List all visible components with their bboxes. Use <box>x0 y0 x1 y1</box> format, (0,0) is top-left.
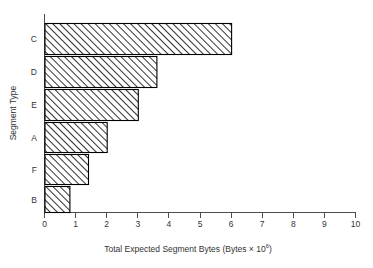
x-tick-label-10: 10 <box>351 219 361 229</box>
chart-canvas: 0 1 2 3 4 5 6 7 8 9 10 C D E A F B Segme… <box>0 0 373 268</box>
x-tick-label-7: 7 <box>260 219 265 229</box>
y-category-label-F: F <box>32 165 37 175</box>
x-tick-label-2: 2 <box>104 219 109 229</box>
x-tick-label-3: 3 <box>135 219 140 229</box>
x-tick-label-5: 5 <box>198 219 203 229</box>
bar-D[interactable] <box>45 57 157 88</box>
bar-C[interactable] <box>45 24 232 55</box>
bar-chart-figure: 0 1 2 3 4 5 6 7 8 9 10 C D E A F B Segme… <box>0 0 373 268</box>
x-tick-label-0: 0 <box>42 219 47 229</box>
x-tick-label-9: 9 <box>322 219 327 229</box>
x-tick-label-6: 6 <box>229 219 234 229</box>
bar-A[interactable] <box>45 123 107 153</box>
y-category-label-D: D <box>31 67 37 77</box>
y-axis-title: Segment Type <box>8 85 18 140</box>
x-axis-title-base: Total Expected Segment Bytes (Bytes × 10 <box>104 244 266 254</box>
x-axis-title: Total Expected Segment Bytes (Bytes × 10… <box>104 243 272 254</box>
bar-B[interactable] <box>45 187 70 213</box>
x-tick-label-8: 8 <box>291 219 296 229</box>
y-category-label-E: E <box>31 100 37 110</box>
x-axis-title-text: Total Expected Segment Bytes (Bytes × 10… <box>104 243 272 254</box>
x-tick-label-1: 1 <box>73 219 78 229</box>
x-axis-title-tail: ) <box>269 244 272 254</box>
bar-E[interactable] <box>45 90 138 121</box>
y-category-label-A: A <box>31 133 37 143</box>
y-category-label-C: C <box>31 34 37 44</box>
x-tick-label-4: 4 <box>167 219 172 229</box>
bar-F[interactable] <box>45 155 89 185</box>
y-category-label-B: B <box>31 195 37 205</box>
